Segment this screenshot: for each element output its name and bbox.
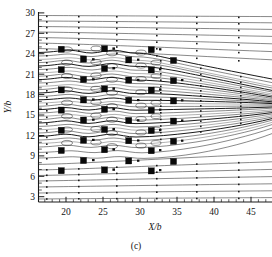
x-tick-label: 20 — [61, 207, 71, 217]
y-axis-title: Y/b — [3, 100, 13, 113]
x-tick-label: 40 — [209, 207, 219, 217]
y-tick-label: 27 — [26, 29, 36, 39]
y-tick-label: 3 — [30, 192, 35, 202]
x-axis-title: X/b — [147, 222, 161, 232]
y-tick-label: 9 — [30, 151, 35, 161]
y-axis-ticks — [39, 13, 45, 197]
y-tick-label: 6 — [30, 172, 35, 182]
x-tick-label: 45 — [246, 207, 256, 217]
y-tick-label: 15 — [26, 110, 36, 120]
streamline-group-upper-farfield — [38, 16, 272, 60]
x-tick-label: 25 — [98, 207, 108, 217]
y-tick-labels: 30 27 24 21 18 15 12 9 6 3 — [26, 8, 36, 202]
y-tick-label: 24 — [26, 49, 36, 59]
streamline-figure: 30 27 24 21 18 15 12 9 6 3 — [0, 0, 272, 257]
y-tick-label: 21 — [26, 70, 36, 80]
x-tick-label: 35 — [172, 207, 182, 217]
figure-caption: (c) — [131, 241, 142, 252]
x-tick-labels: 20 25 30 35 40 45 — [61, 207, 256, 217]
plot-interior — [38, 16, 272, 200]
streamline-group-array-rows — [38, 50, 272, 158]
streamline-group-lower-farfield — [38, 154, 272, 199]
y-tick-label: 30 — [26, 8, 36, 18]
plot-canvas: 30 27 24 21 18 15 12 9 6 3 — [0, 0, 272, 257]
x-tick-label: 30 — [135, 207, 145, 217]
y-tick-label: 12 — [26, 131, 36, 141]
y-tick-label: 18 — [26, 90, 36, 100]
